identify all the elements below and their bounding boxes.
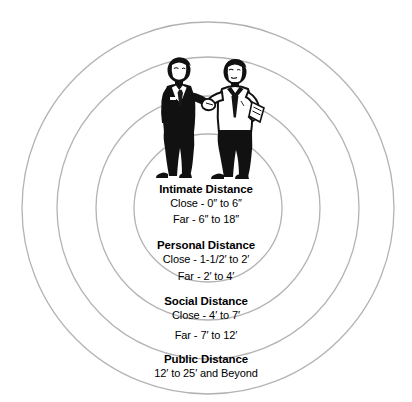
zone-label-public: Public Distance 12′ to 25′ and Beyond bbox=[0, 353, 412, 380]
zone-heading-personal: Personal Distance bbox=[0, 239, 412, 253]
zone-sub-personal-far: Far - 2′ to 4′ bbox=[0, 270, 412, 283]
zone-label-social-far: Far - 7′ to 12′ bbox=[0, 329, 412, 342]
zone-label-intimate: Intimate Distance Close - 0″ to 6″ bbox=[0, 183, 412, 210]
two-men-shaking-hands-illustration bbox=[146, 56, 274, 182]
zone-sub-social: Close - 4′ to 7′ bbox=[0, 309, 412, 322]
zone-heading-intimate: Intimate Distance bbox=[0, 183, 412, 197]
zone-sub-personal: Close - 1-1/2′ to 2′ bbox=[0, 253, 412, 266]
zone-sub-social-far: Far - 7′ to 12′ bbox=[0, 329, 412, 342]
zone-label-intimate-far: Far - 6″ to 18″ bbox=[0, 213, 412, 226]
zone-heading-social: Social Distance bbox=[0, 295, 412, 309]
zone-label-personal-far: Far - 2′ to 4′ bbox=[0, 270, 412, 283]
proxemics-diagram: Intimate Distance Close - 0″ to 6″ Far -… bbox=[0, 0, 412, 402]
zone-heading-public: Public Distance bbox=[0, 353, 412, 367]
right-man-figure bbox=[206, 59, 264, 179]
zone-label-personal: Personal Distance Close - 1-1/2′ to 2′ bbox=[0, 239, 412, 266]
zone-label-social: Social Distance Close - 4′ to 7′ bbox=[0, 295, 412, 322]
zone-sub-intimate-far: Far - 6″ to 18″ bbox=[0, 213, 412, 226]
zone-sub-intimate: Close - 0″ to 6″ bbox=[0, 197, 412, 210]
zone-sub-public: 12′ to 25′ and Beyond bbox=[0, 367, 412, 380]
left-man-figure bbox=[156, 58, 213, 179]
handshake-hands bbox=[202, 99, 216, 110]
